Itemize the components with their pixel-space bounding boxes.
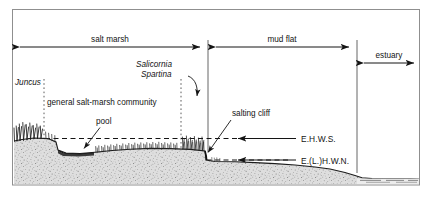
zone-label-salt-marsh: salt marsh <box>91 35 129 44</box>
zone-span-salt-marsh: salt marsh <box>20 35 200 48</box>
label-general-community: general salt-marsh community <box>47 98 158 107</box>
label-salicornia: Salicornia <box>136 60 172 69</box>
salting-cliff-leader-arrow <box>208 120 231 153</box>
zone-label-mud-flat: mud flat <box>267 35 297 44</box>
pool-water <box>58 150 94 156</box>
profile-figure: salt marsh mud flat estuary Juncus Salic… <box>0 0 428 203</box>
label-spartina: Spartina <box>141 70 172 79</box>
ground-substrate <box>14 138 419 184</box>
label-salting-cliff: salting cliff <box>232 109 271 118</box>
tide-label-ehws: E.H.W.S. <box>301 134 336 144</box>
salicornia-spartina-leader-arrow <box>188 76 197 96</box>
label-juncus: Juncus <box>14 78 41 87</box>
zone-span-mud-flat: mud flat <box>216 35 349 48</box>
tide-label-elhwn: E.(L.)H.W.N. <box>301 156 349 166</box>
salt-marsh-profile-diagram: salt marsh mud flat estuary Juncus Salic… <box>0 0 428 203</box>
estuary-water <box>357 179 419 184</box>
zone-span-estuary: estuary <box>364 51 414 64</box>
label-pool: pool <box>96 117 112 126</box>
zone-label-estuary: estuary <box>376 51 404 60</box>
